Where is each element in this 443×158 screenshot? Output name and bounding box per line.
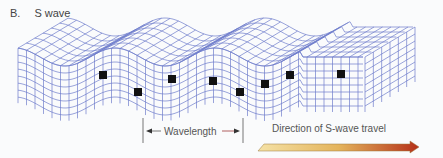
wavelength-label: Wavelength bbox=[164, 126, 216, 137]
particle-marker bbox=[168, 75, 176, 83]
s-wave-diagram bbox=[0, 0, 443, 158]
particle-marker bbox=[337, 70, 345, 78]
direction-label: Direction of S-wave travel bbox=[272, 123, 386, 134]
particle-marker bbox=[209, 77, 217, 85]
particle-marker bbox=[286, 71, 294, 79]
particle-marker bbox=[236, 88, 244, 96]
wave-grid bbox=[18, 18, 415, 121]
direction-arrow-icon bbox=[258, 141, 419, 153]
particle-marker bbox=[261, 80, 269, 88]
particle-marker bbox=[99, 71, 107, 79]
particle-marker bbox=[134, 88, 142, 96]
